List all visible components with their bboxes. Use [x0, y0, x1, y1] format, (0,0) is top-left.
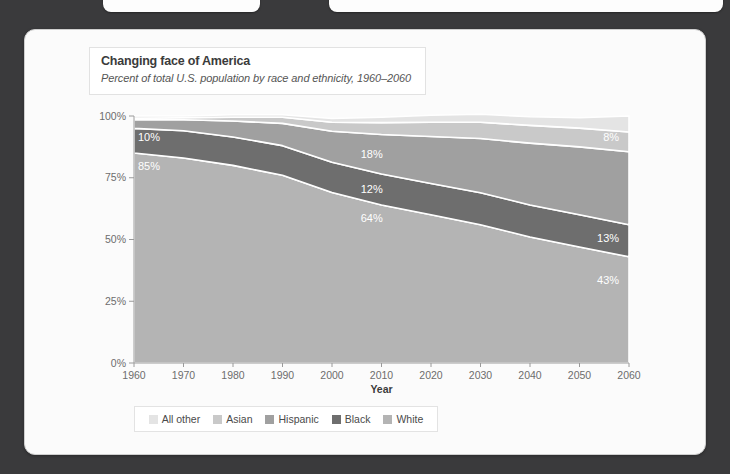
data-label: 85% — [138, 160, 160, 172]
chart-legend: All otherAsianHispanicBlackWhite — [134, 406, 438, 432]
legend-item-label: Asian — [226, 413, 252, 425]
legend-swatch-icon — [265, 415, 274, 424]
legend-swatch-icon — [149, 415, 158, 424]
legend-item[interactable]: White — [383, 413, 423, 425]
x-tick-label: 1960 — [122, 369, 146, 381]
legend-item-label: All other — [162, 413, 201, 425]
x-tick-label: 2020 — [419, 369, 443, 381]
x-tick-label: 1980 — [221, 369, 245, 381]
x-tick-label: 2040 — [518, 369, 542, 381]
data-label: 13% — [597, 232, 619, 244]
legend-swatch-icon — [213, 415, 222, 424]
x-tick-label: 2030 — [469, 369, 493, 381]
page-root: Changing face of America Percent of tota… — [0, 0, 730, 474]
y-tick-label: 50% — [105, 233, 126, 245]
x-tick-label: 2060 — [617, 369, 641, 381]
y-tick-label: 100% — [99, 110, 126, 122]
stacked-area-chart: 0%25%50%75%100%1960197019801990200020102… — [25, 30, 707, 456]
legend-item[interactable]: Hispanic — [265, 413, 318, 425]
data-label: 18% — [361, 148, 383, 160]
chart-card: Changing face of America Percent of tota… — [24, 29, 706, 455]
top-panel-left — [103, 0, 260, 12]
x-tick-label: 2050 — [568, 369, 592, 381]
y-tick-label: 0% — [111, 357, 126, 369]
legend-item[interactable]: Black — [332, 413, 371, 425]
legend-swatch-icon — [332, 415, 341, 424]
legend-item-label: White — [396, 413, 423, 425]
data-label: 10% — [138, 131, 160, 143]
legend-item-label: Hispanic — [278, 413, 318, 425]
x-tick-label: 1990 — [271, 369, 295, 381]
data-label: 12% — [361, 183, 383, 195]
legend-item-label: Black — [345, 413, 371, 425]
legend-item[interactable]: Asian — [213, 413, 252, 425]
x-tick-label: 1970 — [172, 369, 196, 381]
data-label: 8% — [603, 131, 619, 143]
top-panel-right — [329, 0, 723, 12]
x-axis-title: Year — [370, 383, 392, 395]
data-label: 43% — [597, 274, 619, 286]
x-tick-label: 2000 — [320, 369, 344, 381]
y-tick-label: 25% — [105, 295, 126, 307]
legend-item[interactable]: All other — [149, 413, 201, 425]
x-tick-label: 2010 — [370, 369, 394, 381]
data-label: 64% — [361, 212, 383, 224]
plot-area: 0%25%50%75%100%1960197019801990200020102… — [25, 30, 707, 456]
y-tick-label: 75% — [105, 171, 126, 183]
legend-swatch-icon — [383, 415, 392, 424]
